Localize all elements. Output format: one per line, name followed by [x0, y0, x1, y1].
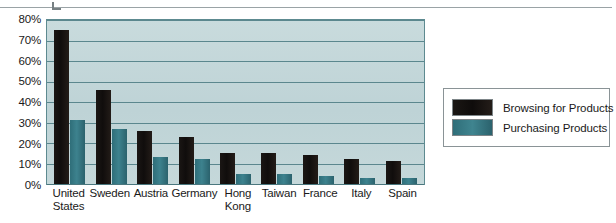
bar-groups	[47, 20, 424, 184]
bar-group	[381, 20, 422, 184]
bar-chart: 80%70%60%50%40%30%20%10%0% UnitedStatesS…	[0, 14, 616, 223]
legend-item: Purchasing Products	[452, 119, 601, 136]
y-axis-tick-label: 60%	[19, 55, 41, 67]
bar-browsing	[137, 131, 152, 184]
x-axis-label-line: States	[48, 200, 89, 213]
x-axis-label-line: United	[48, 187, 89, 200]
bar-purchasing	[319, 176, 334, 184]
x-axis-tick-label: Spain	[382, 187, 423, 213]
bar-browsing	[54, 30, 69, 184]
bar-group	[173, 20, 214, 184]
y-axis-tick-label: 30%	[19, 117, 41, 129]
x-axis-tick-label: HongKong	[217, 187, 258, 213]
x-axis-label-line: Italy	[341, 187, 382, 200]
x-axis-tick-label: Taiwan	[258, 187, 299, 213]
bar-purchasing	[402, 178, 417, 184]
gridline	[47, 184, 424, 185]
page-divider-rule	[0, 7, 612, 8]
y-axis-tick-label: 80%	[19, 13, 41, 25]
x-axis-tick-label: UnitedStates	[48, 187, 89, 213]
bar-purchasing	[153, 157, 168, 184]
x-axis-label-line: Austria	[130, 187, 171, 200]
bar-purchasing	[277, 174, 292, 184]
legend-item: Browsing for Products	[452, 99, 601, 116]
bar-group	[215, 20, 256, 184]
bar-browsing	[386, 161, 401, 184]
x-axis-label-line: Kong	[217, 200, 258, 213]
y-axis: 80%70%60%50%40%30%20%10%0%	[0, 19, 44, 185]
bar-purchasing	[360, 178, 375, 184]
x-axis-labels: UnitedStatesSwedenAustriaGermanyHongKong…	[46, 187, 425, 213]
x-axis-label-line: Hong	[217, 187, 258, 200]
y-axis-tick-label: 0%	[25, 179, 41, 191]
bar-browsing	[220, 153, 235, 184]
y-axis-tick-label: 10%	[19, 158, 41, 170]
bar-group	[49, 20, 90, 184]
bar-purchasing	[195, 159, 210, 184]
bar-group	[132, 20, 173, 184]
x-axis-label-line: France	[300, 187, 341, 200]
bar-group	[339, 20, 380, 184]
bar-group	[298, 20, 339, 184]
x-axis-tick-label: Austria	[130, 187, 171, 213]
y-axis-tick-label: 40%	[19, 96, 41, 108]
legend-label: Purchasing Products	[503, 122, 607, 134]
bar-browsing	[344, 159, 359, 184]
bar-browsing	[261, 153, 276, 184]
x-axis-label-line: Taiwan	[258, 187, 299, 200]
chart-legend: Browsing for ProductsPurchasing Products	[443, 88, 610, 147]
y-axis-tick-label: 70%	[19, 34, 41, 46]
x-axis-tick-label: Germany	[171, 187, 217, 213]
x-axis-tick-label: Sweden	[89, 187, 130, 213]
legend-label: Browsing for Products	[503, 102, 613, 114]
bar-purchasing	[70, 120, 85, 184]
bar-group	[256, 20, 297, 184]
scan-artifact-mark	[52, 2, 61, 10]
bar-group	[90, 20, 131, 184]
x-axis-label-line: Germany	[171, 187, 217, 200]
bar-purchasing	[236, 174, 251, 184]
legend-swatch-purchasing	[452, 119, 493, 136]
x-axis-label-line: Spain	[382, 187, 423, 200]
bar-browsing	[179, 137, 194, 184]
legend-swatch-browsing	[452, 99, 493, 116]
bar-browsing	[96, 90, 111, 184]
y-axis-tick-label: 50%	[19, 75, 41, 87]
x-axis-label-line: Sweden	[89, 187, 130, 200]
bar-purchasing	[112, 129, 127, 184]
y-axis-tick-label: 20%	[19, 138, 41, 150]
x-axis-tick-label: France	[300, 187, 341, 213]
bar-browsing	[303, 155, 318, 184]
x-axis-tick-label: Italy	[341, 187, 382, 213]
plot-area	[46, 19, 425, 185]
